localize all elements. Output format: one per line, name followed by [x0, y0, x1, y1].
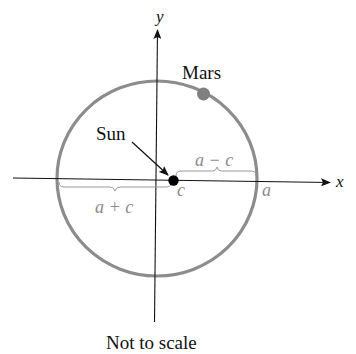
- sun-label: Sun: [96, 123, 126, 144]
- a-minus-c-label: a − c: [195, 150, 233, 170]
- mars-dot: [197, 88, 210, 101]
- caption-not-to-scale: Not to scale: [106, 332, 197, 353]
- y-axis: [155, 30, 158, 322]
- orbit-diagram: y x Mars Sun a − c a + c c a Not to scal…: [0, 0, 356, 354]
- sun-pointer-arrow: [132, 142, 168, 175]
- y-axis-label: y: [154, 7, 164, 26]
- focus-c-label: c: [177, 180, 185, 200]
- vertex-a-label: a: [262, 180, 271, 200]
- mars-label: Mars: [182, 62, 221, 83]
- x-axis-label: x: [335, 172, 344, 191]
- brace-a-plus-c: [59, 182, 171, 191]
- a-plus-c-label: a + c: [95, 197, 133, 217]
